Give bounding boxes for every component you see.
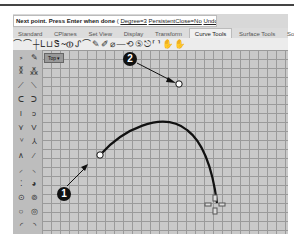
vee-icon[interactable]: ⋎ [15, 122, 27, 134]
arc-4-icon[interactable]: ◝ [28, 220, 40, 232]
toolbar-tabs: Standard CPlanes Set View Display Transf… [13, 28, 288, 38]
circle-center-icon[interactable]: ⊙ [15, 192, 27, 204]
blend-icon[interactable]: ⱽ [15, 136, 27, 148]
tab-curve-tools[interactable]: Curve Tools [189, 28, 233, 38]
points-icon[interactable]: ⁑ [15, 66, 27, 78]
rhino-window: Next point. Press Enter when done ( Degr… [13, 14, 288, 234]
chamfer-icon[interactable]: ⸜ [28, 164, 40, 176]
dot-icon[interactable]: ⁚ [15, 178, 27, 190]
top-viewport[interactable]: Top ▾ 1 2 [42, 50, 288, 234]
command-prompt-text: Next point. Press Enter when done [16, 18, 115, 24]
wedge-icon[interactable]: ∧ [15, 150, 27, 162]
line-icon[interactable]: ⟋ [15, 80, 27, 92]
curve-cv-icon[interactable]: ᑐ [28, 94, 40, 106]
top-divider [0, 4, 294, 6]
arc2-icon[interactable]: ɔ [28, 108, 40, 120]
callout-badge-1: 1 [57, 187, 71, 201]
slash-icon[interactable]: ⁄ [28, 150, 40, 162]
viewport-overlay [42, 50, 288, 234]
curve-icon[interactable]: ᑕ [15, 94, 27, 106]
polyline-icon[interactable]: ⟍ [28, 80, 40, 92]
circle-icon[interactable]: ○ [15, 206, 27, 218]
arc-icon[interactable]: Ɩ [15, 108, 27, 120]
vee2-icon[interactable]: V [28, 122, 40, 134]
option-degree[interactable]: Degree=3 [120, 18, 147, 24]
curve-tools-toolbar[interactable]: ⌒⌒┼ᒪ⊔Ꮥ∼⦶ᔑ⌒✎✐⌀—⟲⑤⎋⸢⸣✋✋ [13, 38, 288, 50]
sphere-icon[interactable]: ◕ [28, 178, 40, 190]
point-icon[interactable]: ✎ [28, 52, 40, 64]
left-toolbar: ⸗ ✎ ⁑ ⁂ ⟋ ⟍ ᑕ ᑐ Ɩ ɔ ⋎ V ⱽ ⅄ ∧ ⁄ ⸝ ⸜ ⁚ ◕ … [13, 50, 42, 234]
command-prompt[interactable]: Next point. Press Enter when done ( Degr… [13, 15, 217, 27]
select-icon[interactable]: ⸗ [15, 52, 27, 64]
cursor-crosshair-icon [205, 195, 225, 214]
toolbar-icons[interactable]: ⌒⌒┼ᒪ⊔Ꮥ∼⦶ᔑ⌒✎✐⌀—⟲⑤⎋⸢⸣✋✋ [13, 39, 186, 49]
callout-badge-2: 2 [123, 52, 137, 66]
next-point [176, 81, 182, 87]
fillet-icon[interactable]: ⸝ [15, 164, 27, 176]
start-point [97, 152, 103, 158]
blend2-icon[interactable]: ⅄ [28, 136, 40, 148]
option-undo[interactable]: Undo [203, 18, 217, 24]
arc-3pt-icon[interactable]: ◜ [15, 220, 27, 232]
option-persistent-close[interactable]: PersistentClose=No [149, 18, 202, 24]
circle3-icon[interactable]: ◎ [28, 206, 40, 218]
circle2-icon[interactable]: ⊚ [28, 192, 40, 204]
point-cloud-icon[interactable]: ⁂ [28, 66, 40, 78]
degree3-curve [100, 122, 217, 203]
